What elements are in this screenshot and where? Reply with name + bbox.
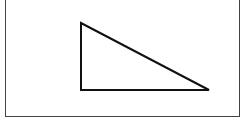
right-triangle — [81, 23, 209, 90]
triangle-diagram — [0, 0, 249, 127]
